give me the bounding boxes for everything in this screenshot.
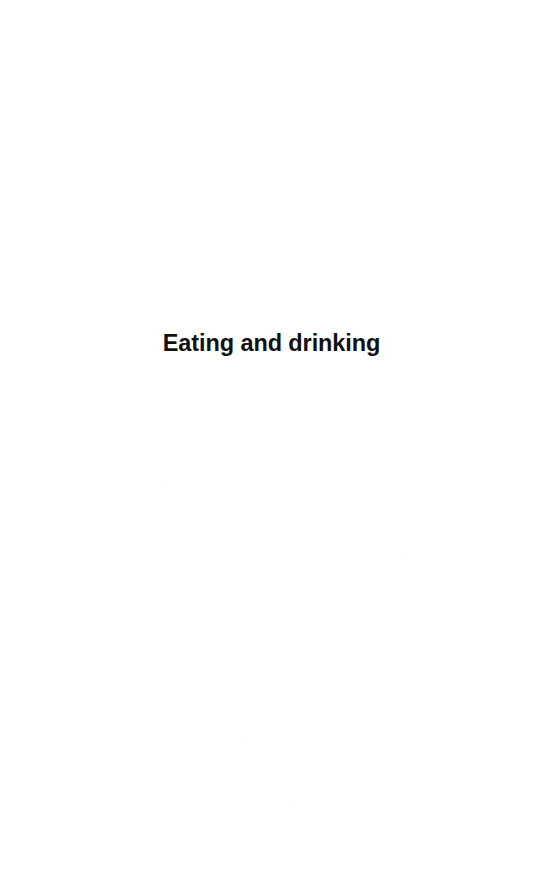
page-title: Eating and drinking	[163, 332, 380, 356]
section-title-band: Eating and drinking	[0, 327, 543, 361]
page-blank-lower-margin	[0, 361, 543, 886]
scanned-page: Eating and drinking	[0, 0, 543, 886]
page-blank-upper-margin	[0, 0, 543, 333]
